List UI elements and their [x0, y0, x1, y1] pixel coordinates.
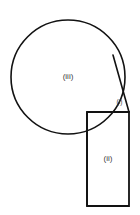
region-label-ii: (ii): [104, 154, 113, 163]
diagram-canvas: (iii) (ii) (i): [0, 0, 140, 215]
region-label-iii: (iii): [63, 72, 74, 81]
diagram-figure: Diagram B (iii) (ii) (i): [0, 0, 140, 215]
region-label-i: (i): [117, 98, 123, 106]
